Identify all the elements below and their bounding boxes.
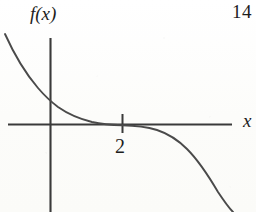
plot-canvas: [0, 0, 256, 212]
x-tick-label-2: 2: [115, 136, 125, 156]
page-number: 14: [232, 2, 252, 21]
function-curve: [5, 34, 233, 212]
x-axis-label: x: [243, 111, 251, 130]
function-graph-figure: f(x) x 2 14: [0, 0, 256, 212]
y-axis-label: f(x): [30, 4, 56, 23]
